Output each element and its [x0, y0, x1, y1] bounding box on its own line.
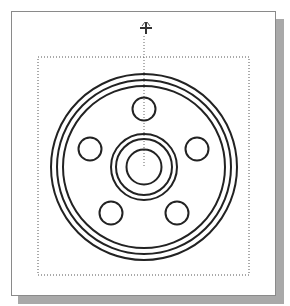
- bolt-hole-bottom-right[interactable]: [166, 202, 189, 225]
- crosshair-move-cursor-icon: [140, 22, 152, 34]
- bolt-hole-right[interactable]: [186, 138, 209, 161]
- bolt-hole-bottom-left[interactable]: [100, 202, 123, 225]
- bolt-holes[interactable]: [79, 98, 209, 225]
- bolt-hole-left[interactable]: [79, 138, 102, 161]
- flange-drawing[interactable]: [0, 0, 290, 306]
